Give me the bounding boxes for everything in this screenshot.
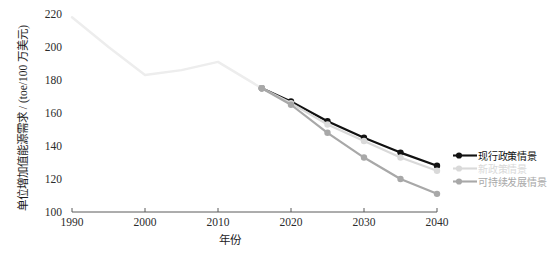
data-point-新政策情景-2030 [361,138,367,144]
legend-swatch-sustainable-development [452,176,478,187]
data-point-新政策情景-2040 [434,168,440,174]
y-tick-220: 220 [45,8,63,20]
data-point-新政策情景-2025 [324,121,330,127]
y-tick-200: 200 [45,41,63,53]
y-tick-160: 160 [45,107,63,119]
x-tick-2030: 2030 [353,216,376,228]
x-tick-2020: 2020 [280,216,303,228]
legend-swatch-new-policies [452,163,478,174]
x-tick-1990: 1990 [61,216,84,228]
data-point-可持续发展情景-2040 [434,191,440,197]
data-point-新政策情景-2035 [397,154,403,160]
x-tick-2010: 2010 [207,216,230,228]
y-tick-120: 120 [45,173,63,185]
data-point-可持续发展情景-2035 [397,176,403,182]
x-tick-2040: 2040 [426,216,449,228]
data-point-可持续发展情景-2030 [361,154,367,160]
legend-label-sustainable-development: 可持续发展情景 [478,174,547,189]
axis-lines [72,208,437,212]
data-point-可持续发展情景-2020 [288,102,294,108]
x-tick-2000: 2000 [134,216,157,228]
y-tick-140: 140 [45,140,63,152]
series-可持续发展情景 [259,85,441,197]
data-point-可持续发展情景-2025 [324,130,330,136]
data-series-group [72,17,440,197]
legend-swatch-current-policies [452,150,478,161]
series-现行政策情景 [259,85,441,169]
legend-item-sustainable-development[interactable]: 可持续发展情景 [452,174,547,189]
y-tick-180: 180 [45,74,63,86]
y-axis-tick-labels: 100120140160180200220 [45,8,63,218]
x-axis-title: 年份 [0,231,460,247]
data-point-可持续发展情景-2016 [259,85,265,91]
series-历史 [72,17,262,88]
x-axis-tick-labels: 199020002010202020302040 [61,216,449,228]
y-axis-title: 单位增加值能源需求 / (toe/100 万美元) [14,13,30,223]
